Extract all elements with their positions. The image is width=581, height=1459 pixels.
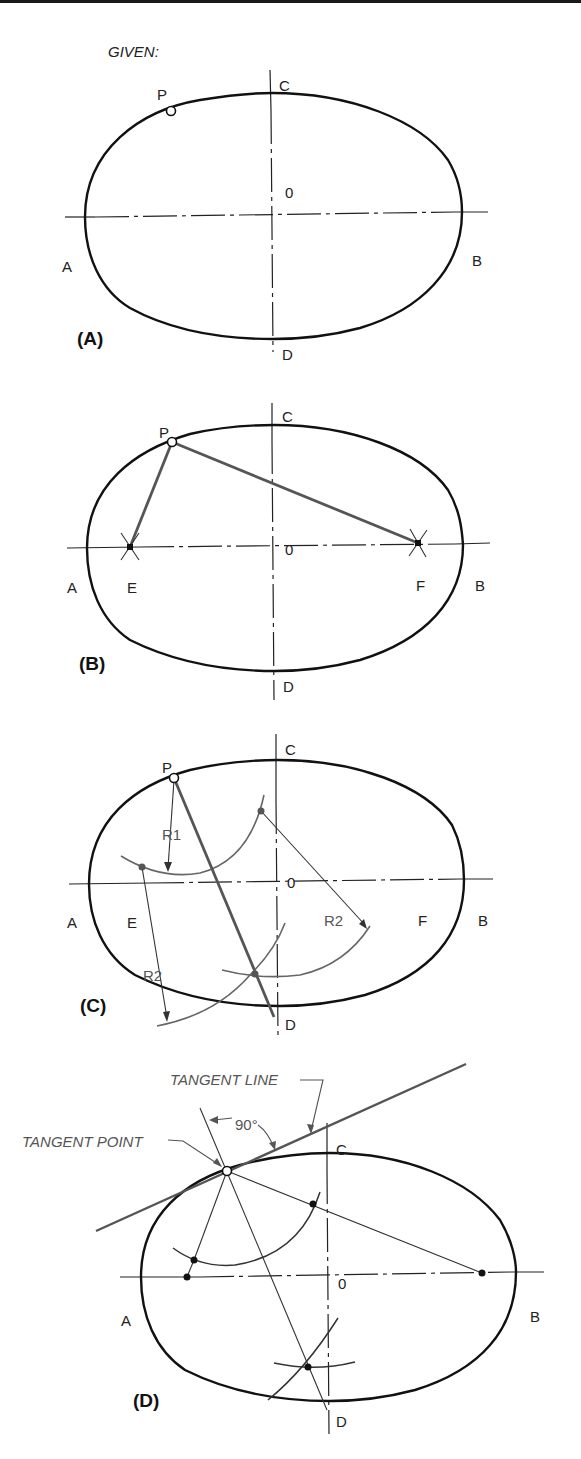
horizontal-axis — [140, 544, 455, 547]
point-c-label: C — [282, 408, 293, 425]
point-d-label: D — [283, 678, 294, 695]
panel-b: P C 0 A E F B D (B) — [67, 403, 490, 700]
vertical-axis — [327, 1170, 329, 1434]
arc-r2-from-upper — [222, 926, 370, 977]
point-b-label: B — [472, 252, 482, 269]
focus-e-marker — [127, 544, 133, 550]
point-f-label: F — [416, 577, 425, 594]
dot-arc-left — [191, 1257, 198, 1264]
focus-e-marker — [184, 1274, 191, 1281]
vertical-axis — [276, 800, 278, 1037]
point-c-label: C — [279, 77, 290, 94]
tangent-point-leader — [168, 1140, 221, 1166]
panel-c: P C 0 A E F B D R1 R2 R2 (C) — [67, 734, 493, 1037]
panel-d: TANGENT LINE TANGENT POINT 90° C 0 A B D… — [22, 1064, 544, 1434]
ellipse-tangent-diagram: GIVEN: P C 0 A B D (A) P C 0 A E F — [0, 0, 581, 1459]
point-e-label: E — [127, 914, 137, 931]
horizontal-axis — [150, 879, 460, 883]
point-b-label: B — [530, 1308, 540, 1325]
vertical-axis-top — [270, 70, 271, 110]
point-p-label: P — [159, 424, 169, 441]
dot-intersection — [305, 1364, 312, 1371]
dot-arc-upper — [310, 1201, 317, 1208]
focus-f-marker — [479, 1270, 486, 1277]
point-c-label: C — [285, 741, 296, 758]
point-d-label: D — [336, 1413, 347, 1430]
point-o-label: 0 — [285, 184, 293, 201]
dot-upper-arc — [258, 808, 265, 815]
ellipse-outline — [87, 425, 463, 671]
point-a-label: A — [67, 914, 77, 931]
arc-upper — [173, 1192, 320, 1265]
point-b-label: B — [478, 912, 488, 929]
panel-d-label: (D) — [133, 1390, 159, 1411]
arc-r1 — [121, 795, 264, 875]
point-d-label: D — [282, 346, 293, 363]
dot-e-arc — [139, 864, 146, 871]
radius-r2-right-label: R2 — [324, 912, 343, 929]
horizontal-axis-right — [455, 543, 490, 544]
focal-line-pf — [172, 442, 418, 543]
ellipse-outline — [85, 93, 462, 339]
radius-r2-left-arrowhead — [163, 1011, 170, 1022]
vertical-axis — [272, 440, 274, 700]
panel-a-label: (A) — [77, 328, 103, 349]
point-d-label: D — [285, 1016, 296, 1033]
arc-r2-from-e — [157, 923, 285, 1026]
vertical-axis — [271, 110, 273, 352]
given-label: GIVEN: — [108, 43, 159, 60]
tangent-line-label: TANGENT LINE — [170, 1071, 279, 1088]
horizontal-axis — [95, 212, 455, 217]
tangent-point-arrowhead — [213, 1158, 222, 1167]
angle-label: 90° — [235, 1116, 258, 1133]
radius-r1-label: R1 — [162, 826, 181, 843]
tangent-line-leader — [300, 1080, 323, 1131]
focus-f-marker — [415, 540, 421, 546]
radius-r2-left-line — [142, 867, 167, 1018]
point-a-label: A — [62, 258, 72, 275]
panel-b-label: (B) — [79, 653, 105, 674]
point-a-label: A — [121, 1312, 131, 1329]
tangent-point-marker — [223, 1167, 232, 1176]
arc-lower-vertical — [268, 1318, 338, 1400]
dot-intersection — [252, 971, 259, 978]
panel-a: GIVEN: P C 0 A B D (A) — [62, 43, 488, 363]
tangent-point-label: TANGENT POINT — [22, 1133, 144, 1150]
angle-arrowhead-left — [209, 1116, 218, 1124]
point-b-label: B — [475, 577, 485, 594]
point-o-label: 0 — [287, 874, 295, 891]
point-e-label: E — [127, 579, 137, 596]
panel-c-label: (C) — [80, 995, 106, 1016]
point-p-marker — [167, 107, 176, 116]
arc-lower-horizontal — [274, 1362, 355, 1367]
angle-arrowhead-right — [269, 1141, 276, 1150]
point-c-label: C — [336, 1141, 347, 1158]
radius-r1-arrowhead — [164, 862, 172, 872]
focal-line-to-f — [227, 1171, 482, 1273]
horizontal-axis-left — [69, 883, 150, 884]
point-o-label: 0 — [338, 1275, 346, 1292]
radius-r1-line — [168, 780, 174, 868]
horizontal-axis — [200, 1272, 510, 1277]
radius-r2-left-label: R2 — [143, 967, 162, 984]
point-o-label: 0 — [285, 541, 293, 558]
point-p-label: P — [157, 86, 167, 103]
point-p-label: P — [162, 759, 172, 776]
point-f-label: F — [418, 912, 427, 929]
tangent-line — [96, 1064, 466, 1231]
point-a-label: A — [67, 579, 77, 596]
